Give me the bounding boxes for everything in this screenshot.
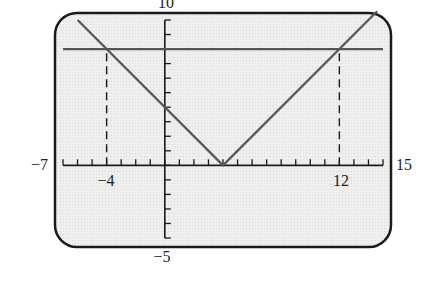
x-label-neg4: −4: [97, 172, 114, 189]
x-label-12: 12: [333, 172, 349, 189]
graphing-calculator-chart: 10 −5 −7 15 −4 12: [0, 0, 431, 281]
x-max-label: 15: [396, 156, 412, 173]
y-min-label: −5: [153, 248, 170, 265]
x-min-label: −7: [31, 156, 48, 173]
y-max-label: 10: [158, 0, 174, 11]
